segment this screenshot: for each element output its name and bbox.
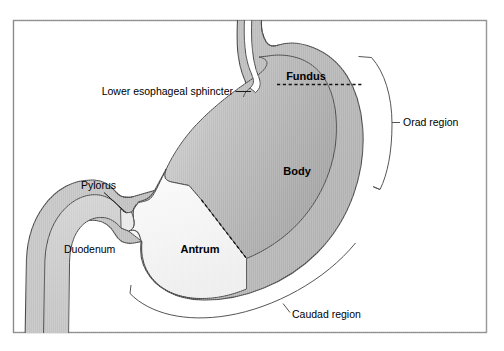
stomach-diagram: Fundus Body Antrum Duodenum Pylorus Lowe… (0, 0, 504, 351)
label-body: Body (283, 165, 311, 177)
label-antrum: Antrum (180, 243, 219, 255)
label-caudad-region: Caudad region (292, 308, 361, 320)
orad-region-bracket (359, 57, 393, 190)
orad-bracket-lower-tick (374, 187, 381, 190)
label-fundus: Fundus (286, 70, 326, 82)
label-orad-region: Orad region (403, 116, 459, 128)
figure-canvas: Fundus Body Antrum Duodenum Pylorus Lowe… (0, 0, 504, 351)
label-lower-esophageal-sphincter: Lower esophageal sphincter (102, 85, 234, 97)
label-pylorus: Pylorus (81, 179, 116, 191)
caudad-region-leader (283, 304, 290, 313)
label-duodenum: Duodenum (64, 243, 116, 255)
